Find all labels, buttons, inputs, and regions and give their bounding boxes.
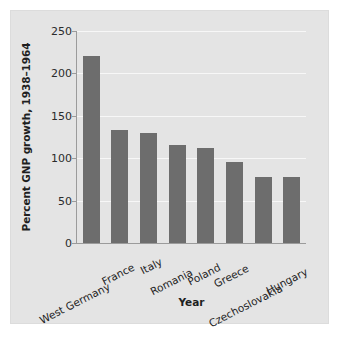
y-axis-tick-label: 50 bbox=[38, 196, 72, 207]
y-axis-tick-label: 0 bbox=[38, 238, 72, 249]
y-axis-tick-mark bbox=[72, 73, 76, 74]
y-axis-tick-label: 100 bbox=[38, 153, 72, 164]
gridline bbox=[77, 31, 306, 32]
y-axis-tick-label: 250 bbox=[38, 26, 72, 37]
bar[interactable] bbox=[111, 130, 128, 243]
y-axis-tick-label: 150 bbox=[38, 111, 72, 122]
gridline bbox=[77, 116, 306, 117]
y-axis-tick-mark bbox=[72, 158, 76, 159]
y-axis-tick-mark bbox=[72, 116, 76, 117]
bar[interactable] bbox=[226, 162, 243, 243]
y-axis-tick-label: 200 bbox=[38, 68, 72, 79]
y-axis-tick-labels: 050100150200250 bbox=[34, 31, 72, 243]
bar[interactable] bbox=[255, 177, 272, 243]
x-axis-tick-label-wrap: Greece bbox=[246, 245, 285, 273]
bar[interactable] bbox=[83, 56, 100, 243]
y-axis-title: Percent GNP growth, 1938–1964 bbox=[20, 31, 36, 243]
bar[interactable] bbox=[169, 145, 186, 243]
y-axis-tick-mark bbox=[72, 243, 76, 244]
bar[interactable] bbox=[283, 177, 300, 243]
y-axis-tick-mark bbox=[72, 31, 76, 32]
bar[interactable] bbox=[140, 133, 157, 243]
gridline bbox=[77, 73, 306, 74]
y-axis-tick-mark bbox=[72, 201, 76, 202]
x-axis-line bbox=[76, 243, 306, 244]
bar-chart-figure: 050100150200250 Percent GNP growth, 1938… bbox=[0, 0, 339, 337]
x-axis-title: Year bbox=[77, 296, 306, 308]
plot-area bbox=[77, 31, 306, 243]
bar[interactable] bbox=[197, 148, 214, 243]
